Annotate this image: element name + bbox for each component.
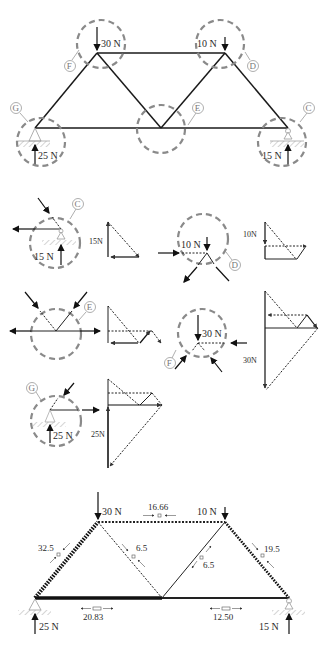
load-label-d: 10 N	[197, 38, 217, 49]
node-label-f: F	[67, 61, 72, 71]
joint-e-tag-label: E	[87, 302, 93, 312]
result-load-d: 10 N	[197, 506, 217, 517]
force-polygon-c: 15N	[89, 222, 139, 257]
member-dc	[225, 522, 289, 598]
joint-c-reaction-label: 15 N	[34, 251, 54, 262]
result-reaction-g: 25 N	[39, 621, 59, 632]
joint-c-tag-label: C	[75, 199, 81, 209]
polygon-c-label: 15N	[89, 237, 103, 246]
force-polygon-d: 10N	[243, 222, 306, 259]
member-ed	[162, 522, 225, 598]
node-label-c: C	[306, 103, 312, 113]
force-polygon-e	[108, 306, 161, 343]
polygon-f-label: 30N	[243, 356, 257, 365]
joint-d-free-body: 10 N D	[158, 214, 241, 282]
joint-c-free-body: 15 N C	[13, 198, 84, 268]
joint-g-free-body: 25 N G	[27, 383, 100, 447]
member-gf	[35, 522, 98, 598]
pin-support-g	[16, 128, 50, 147]
force-polygon-f: 30N	[243, 291, 318, 390]
member-fe	[98, 522, 162, 598]
joint-d-load-label: 10 N	[181, 239, 201, 250]
member-ed-force: 6.5	[203, 560, 215, 570]
joint-e-free-body: E	[10, 292, 100, 359]
joint-f-free-body: 30 N F	[165, 309, 248, 372]
polygon-g-label: 25N	[91, 430, 105, 439]
joint-f-load-label: 30 N	[202, 328, 222, 339]
result-truss: 30 N 10 N 25 N 15 N 16.66 32.5 6.5 6.5 1…	[18, 492, 305, 634]
reaction-label-g: 25 N	[38, 150, 58, 161]
member-ec-force: 12.50	[213, 612, 234, 622]
force-polygon-g: 25N	[91, 379, 162, 468]
member-fd-force: 16.66	[148, 502, 169, 512]
truss-diagram-figure: 30 N 10 N 25 N 15 N F D E G C	[0, 0, 325, 646]
result-load-f: 30 N	[102, 506, 122, 517]
truss-overview: 30 N 10 N 25 N 15 N F D E G C	[11, 20, 315, 166]
node-label-d: D	[250, 61, 257, 71]
joint-circle-e	[137, 105, 185, 153]
result-reaction-c: 15 N	[259, 621, 279, 632]
node-label-g: G	[13, 103, 20, 113]
joint-f-tag-label: F	[167, 358, 172, 368]
joint-d-tag-label: D	[232, 260, 239, 270]
member-ge-force: 20.83	[83, 612, 104, 622]
joint-g-reaction-label: 25 N	[53, 430, 73, 441]
member-gf-force: 32.5	[38, 543, 54, 553]
polygon-d-label: 10N	[243, 230, 257, 239]
load-label-f: 30 N	[101, 38, 121, 49]
member-fe-force: 6.5	[136, 543, 148, 553]
joint-g-tag-label: G	[29, 383, 36, 393]
member-dc-force: 19.5	[264, 544, 280, 554]
roller-support-c	[270, 129, 304, 148]
node-label-e: E	[195, 103, 201, 113]
